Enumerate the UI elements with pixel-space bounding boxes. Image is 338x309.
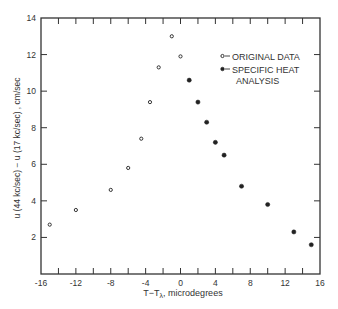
filled-circle-point [309,243,313,247]
y-tick-label: 2 [31,232,36,242]
x-tick-label: 12 [280,278,290,288]
y-axis-ticks: 2468101214 [27,13,320,242]
x-axis-label-main: T−T [143,288,160,298]
open-circle-point [48,223,51,226]
y-tick-label: 14 [27,13,37,23]
y-tick-label: 8 [31,123,36,133]
legend-open-circle-icon [221,54,224,57]
open-circle-point [179,55,182,58]
open-circle-point [157,66,160,69]
x-tick-label: 8 [248,278,253,288]
open-circle-point [148,101,151,104]
filled-circle-point [187,78,191,82]
legend-label-specific-heat-line2: ANALYSIS [236,76,279,86]
open-circle-point [170,35,173,38]
open-circle-point [109,188,112,191]
filled-circle-point [239,184,243,188]
legend-label-original: ORIGINAL DATA [232,52,300,62]
y-tick-label: 6 [31,159,36,169]
x-tick-label: 4 [213,278,218,288]
x-tick-label: -12 [70,278,83,288]
open-circle-point [74,208,77,211]
x-tick-label: -4 [142,278,150,288]
scatter-chart: -16-12-8-40481216 2468101214 ORIGINAL DA… [0,0,338,309]
legend: ORIGINAL DATA SPECIFIC HEAT ANALYSIS [221,52,300,87]
legend-label-specific-heat-line1: SPECIFIC HEAT [232,65,300,75]
x-axis-label-rest: , microdegrees [163,288,223,298]
x-tick-label: -16 [35,278,48,288]
y-tick-label: 12 [27,50,37,60]
filled-circle-point [222,153,226,157]
open-circle-point [140,137,143,140]
x-tick-label: -8 [107,278,115,288]
y-axis-label: u (44 kc/sec) − u (17 kc/sec) , cm/sec [12,77,22,219]
x-axis-label: T−Tλ, microdegrees [143,288,223,299]
filled-circle-point [266,202,270,206]
y-tick-label: 4 [31,196,36,206]
open-circle-point [127,166,130,169]
x-tick-label: 0 [178,278,183,288]
filled-circle-point [213,140,217,144]
filled-circle-point [196,100,200,104]
x-tick-label: 16 [315,278,325,288]
legend-filled-circle-icon [221,67,225,71]
y-tick-label: 10 [27,86,37,96]
filled-circle-point [205,120,209,124]
filled-circle-point [292,230,296,234]
